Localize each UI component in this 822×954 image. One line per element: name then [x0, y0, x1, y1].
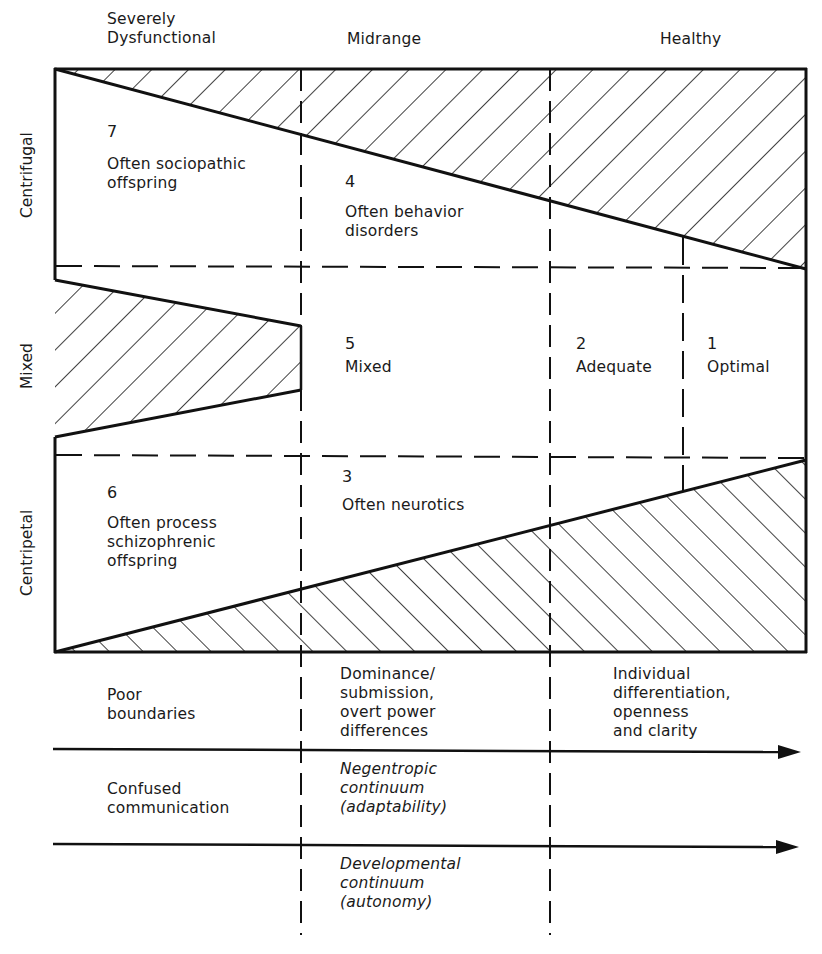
continuum-developmental: Developmental continuum (autonomy) — [340, 855, 461, 912]
row-divider-lower — [56, 455, 806, 458]
column-header-healthy: Healthy — [660, 30, 721, 49]
negentropic-arrow-line — [53, 749, 780, 752]
continuum-negentropic: Negentropic continuum (adaptability) — [340, 760, 447, 817]
cell-4-number: 4 — [345, 172, 355, 191]
column-header-severely-dysfunctional: Severely Dysfunctional — [107, 10, 216, 48]
cell-6-label: Often process schizophrenic offspring — [107, 514, 217, 571]
developmental-arrow-line — [53, 844, 780, 847]
cell-3-label: Often neurotics — [342, 496, 464, 515]
developmental-arrowhead — [776, 840, 799, 854]
row-label-centripetal: Centripetal — [18, 510, 36, 596]
cell-6-number: 6 — [107, 483, 117, 502]
cell-2-number: 2 — [576, 334, 586, 353]
continuum-poor-boundaries: Poor boundaries — [107, 686, 196, 724]
cell-4-label: Often behavior disorders — [345, 203, 464, 241]
cell-1-label: Optimal — [707, 358, 770, 377]
cell-5-label: Mixed — [345, 358, 392, 377]
row-label-centrifugal: Centrifugal — [18, 132, 36, 218]
row-divider-upper — [56, 266, 806, 268]
negentropic-arrowhead — [778, 745, 801, 759]
cell-2-label: Adequate — [576, 358, 652, 377]
continuum-dominance-submission: Dominance/ submission, overt power diffe… — [340, 665, 436, 741]
cell-7-label: Often sociopathic offspring — [107, 155, 246, 193]
continuum-individual-differentiation: Individual differentiation, openness and… — [613, 665, 731, 741]
cell-3-number: 3 — [342, 467, 352, 486]
row-label-mixed: Mixed — [18, 343, 36, 389]
cell-1-number: 1 — [707, 334, 717, 353]
column-header-midrange: Midrange — [347, 30, 421, 49]
cell-7-number: 7 — [107, 122, 117, 141]
continuum-confused-communication: Confused communication — [107, 780, 229, 818]
cell-5-number: 5 — [345, 334, 355, 353]
